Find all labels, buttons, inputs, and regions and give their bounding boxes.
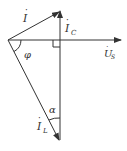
i-vector [8, 12, 59, 40]
svg-text:·: · [66, 15, 69, 25]
right-angle-marker [53, 40, 60, 47]
svg-text:L: L [42, 127, 48, 135]
alpha-label: α [49, 104, 56, 115]
i-label: I · [22, 5, 28, 25]
ic-label: I · C [64, 15, 77, 37]
il-vector [8, 40, 59, 140]
phi-label: φ [24, 49, 31, 60]
svg-text:S: S [111, 53, 115, 60]
us-label: U · S [104, 42, 115, 60]
svg-text:C: C [71, 29, 77, 37]
alpha-arc [49, 118, 60, 120]
svg-text:·: · [25, 5, 28, 15]
phasor-diagram: I · I · C U · S I · L φ α [0, 0, 127, 151]
svg-text:·: · [106, 42, 109, 51]
phi-arc [14, 40, 21, 52]
il-label: I · L [36, 113, 48, 135]
svg-text:·: · [38, 113, 41, 123]
